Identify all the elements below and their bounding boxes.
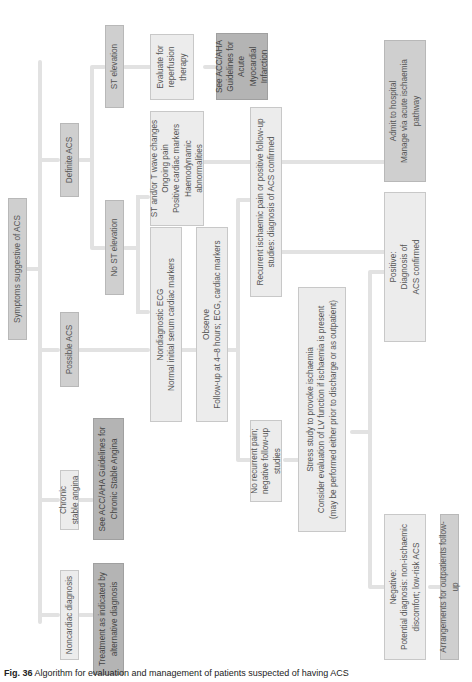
node-negative-result: Negative: Potential diagnosis: non-ischa… bbox=[384, 514, 426, 660]
node-nondiagnostic-ecg: Nondiagnostic ECG Normal initial serum c… bbox=[150, 227, 182, 422]
node-no-recurrent-pain: No recurrent pain; negative follow-up st… bbox=[250, 420, 282, 502]
node-positive-result: Positive: Diagnosis of ACS confirmed bbox=[384, 192, 426, 342]
node-st-t-wave-changes: ST and/or T wave changes Ongoing pain Po… bbox=[150, 111, 204, 226]
node-possible-acs: Possible ACS bbox=[60, 312, 79, 387]
figure-caption: Fig. 36 Algorithm for evaluation and man… bbox=[0, 668, 472, 682]
node-recurrent-ischaemic-pain: Recurrent ischaemic pain or positive fol… bbox=[250, 107, 282, 297]
node-symptoms-acs: Symptoms suggestive of ACS bbox=[8, 198, 27, 340]
node-treatment-alternative: Treatment as indicated by alternative di… bbox=[93, 563, 124, 675]
node-see-chronic-angina-guidelines: See ACC/AHA Guidelines for Chronic Stabl… bbox=[93, 418, 124, 540]
node-admit-to-hospital: Admit to hospital Manage via acute ischa… bbox=[384, 40, 426, 182]
node-see-ami-guidelines: See ACC/AHA Guidelines for Acute Myocard… bbox=[216, 33, 268, 100]
node-st-elevation: ST elevation bbox=[105, 25, 124, 108]
node-chronic-stable-angina: Chronic stable angina bbox=[60, 470, 79, 530]
node-definite-acs: Definite ACS bbox=[60, 123, 79, 197]
flowchart-canvas: Symptoms suggestive of ACS Noncardiac di… bbox=[0, 0, 472, 682]
caption-text: Algorithm for evaluation and management … bbox=[35, 668, 349, 678]
node-evaluate-reperfusion: Evaluate for reperfusion therapy bbox=[150, 34, 194, 100]
node-observe: Observe Follow-up at 4–8 hours; ECG, car… bbox=[196, 227, 228, 422]
node-stress-study: Stress study to provoke ischaemia Consid… bbox=[298, 287, 346, 532]
node-arrangements-followup: Arrangements for outpatients follow-up bbox=[440, 514, 459, 660]
node-no-st-elevation: No ST elevation bbox=[105, 200, 124, 295]
caption-label: Fig. 36 bbox=[4, 668, 33, 678]
node-noncardiac-diagnosis: Noncardiac diagnosis bbox=[60, 570, 79, 660]
